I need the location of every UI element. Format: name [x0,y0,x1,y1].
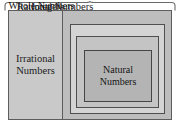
natural-numbers-label: Natural Numbers [100,64,137,88]
irrational-numbers-label: Irrational Numbers [16,53,55,77]
natural-label-line-1: Natural [100,64,137,76]
set-irrational-numbers: Irrational Numbers [8,10,63,120]
natural-label-line-2: Numbers [100,76,137,88]
set-natural-numbers: Natural Numbers [84,50,152,102]
irrational-label-line-2: Numbers [16,65,55,77]
whole-numbers-label: Whole Numbers [0,0,83,12]
irrational-label-line-1: Irrational [16,53,55,65]
real-number-system-diagram: Irrational Numbers Rational Numbers Inte… [0,0,180,125]
